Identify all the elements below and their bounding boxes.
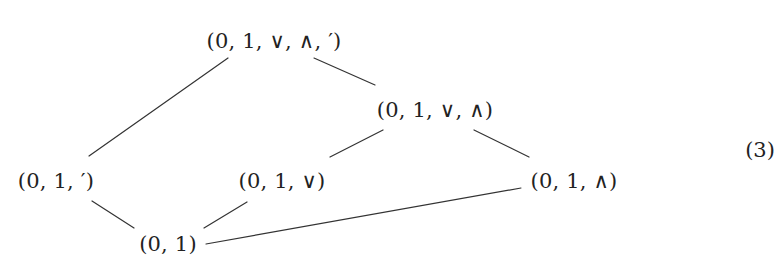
edge-join-meet-to-join bbox=[330, 130, 383, 157]
edge-join-meet-to-meet bbox=[474, 130, 529, 157]
node-join-meet: (0, 1, ∨, ∧) bbox=[377, 98, 493, 122]
node-meet: (0, 1, ∧) bbox=[531, 169, 618, 193]
equation-number: (3) bbox=[745, 138, 775, 162]
node-bottom: (0, 1) bbox=[139, 232, 197, 256]
node-join: (0, 1, ∨) bbox=[239, 169, 326, 193]
node-complement: (0, 1, ′) bbox=[18, 169, 94, 193]
hasse-diagram bbox=[0, 0, 783, 274]
edge-top-to-join-meet bbox=[314, 58, 375, 85]
edge-top-to-complement bbox=[89, 58, 228, 156]
edge-join-to-bottom bbox=[204, 202, 247, 228]
node-top: (0, 1, ∨, ∧, ′) bbox=[206, 29, 341, 53]
edge-bottom-to-meet bbox=[206, 188, 521, 244]
edge-complement-to-bottom bbox=[92, 201, 134, 228]
